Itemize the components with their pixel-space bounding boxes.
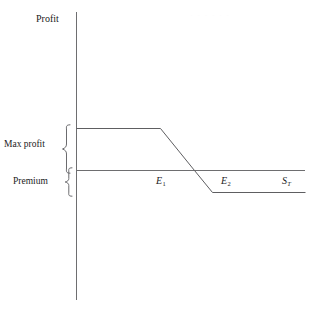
y-axis-label: Profit <box>36 14 59 24</box>
x-axis-line <box>76 170 305 171</box>
strike-1-label: E1 <box>156 176 165 186</box>
strike-2-label: E2 <box>221 176 230 186</box>
scan-artifact-top: · · · · · · <box>190 10 230 20</box>
underlying-axis-label: ST <box>282 176 291 186</box>
strike-1-subscript: 1 <box>162 180 165 187</box>
premium-brace-icon <box>61 167 74 197</box>
underlying-subscript: T <box>287 180 291 187</box>
strike-2-subscript: 2 <box>227 180 230 187</box>
premium-label: Premium <box>13 177 48 187</box>
profit-diagram-figure: · · · · · · Profit Max profit Premium E1… <box>0 0 312 311</box>
payoff-path <box>77 129 306 193</box>
y-axis-line <box>76 12 77 300</box>
payoff-line <box>0 0 312 311</box>
max-profit-label: Max profit <box>4 140 45 150</box>
